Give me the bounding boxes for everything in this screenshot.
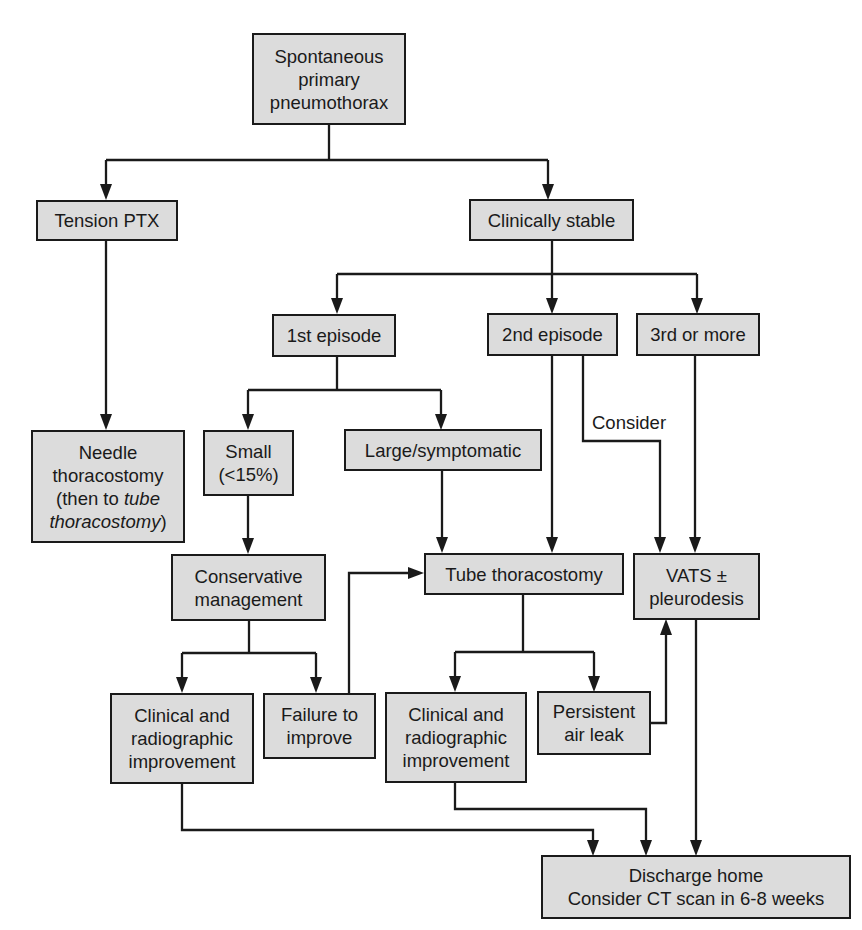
node-text: improvement xyxy=(403,749,510,772)
node-text: Persistent xyxy=(553,700,635,723)
node-text: Large/symptomatic xyxy=(365,439,521,462)
node-text-fragment: (then to xyxy=(56,488,124,509)
node-small: Small (<15%) xyxy=(203,430,294,496)
node-text: (<15%) xyxy=(218,463,278,486)
node-text: Consider CT scan in 6-8 weeks xyxy=(568,887,825,910)
node-text: improve xyxy=(287,726,353,749)
node-3rd-or-more: 3rd or more xyxy=(636,313,760,356)
node-text: thoracostomy xyxy=(52,464,163,487)
node-large-symptomatic: Large/symptomatic xyxy=(344,429,542,471)
node-text: Clinical and xyxy=(408,703,504,726)
edge-label-consider: Consider xyxy=(592,412,666,434)
node-1st-episode: 1st episode xyxy=(272,314,396,357)
node-tension-ptx: Tension PTX xyxy=(36,200,178,241)
node-text-fragment: ) xyxy=(160,511,166,532)
node-text: 3rd or more xyxy=(650,323,746,346)
node-text: VATS ± xyxy=(666,564,727,587)
node-persistent-air-leak: Persistent air leak xyxy=(537,691,651,755)
node-discharge-home: Discharge home Consider CT scan in 6-8 w… xyxy=(541,855,851,919)
node-text: radiographic xyxy=(405,726,507,749)
node-vats-pleurodesis: VATS ± pleurodesis xyxy=(633,553,760,620)
node-needle-thoracostomy: Needle thoracostomy (then to tube thorac… xyxy=(31,430,185,543)
node-clinical-improvement-right: Clinical and radiographic improvement xyxy=(385,692,527,783)
node-clinical-improvement-left: Clinical and radiographic improvement xyxy=(110,693,254,784)
node-text: (then to tube xyxy=(56,487,160,510)
node-text-italic: tube xyxy=(124,488,160,509)
node-text: Spontaneous xyxy=(274,45,383,68)
node-text: primary xyxy=(298,68,360,91)
node-text: Tension PTX xyxy=(55,209,160,232)
node-tube-thoracostomy: Tube thoracostomy xyxy=(424,553,624,595)
node-text: air leak xyxy=(564,723,624,746)
node-text: pneumothorax xyxy=(270,91,388,114)
node-spontaneous-primary-pneumothorax: Spontaneous primary pneumothorax xyxy=(252,33,406,125)
node-text: 2nd episode xyxy=(502,323,603,346)
node-text: Conservative xyxy=(195,565,303,588)
node-text: 1st episode xyxy=(287,324,382,347)
node-text: improvement xyxy=(129,750,236,773)
node-text: Clinically stable xyxy=(488,209,616,232)
node-text: thoracostomy) xyxy=(49,510,166,533)
node-text: Discharge home xyxy=(629,864,764,887)
node-text: Small xyxy=(225,440,271,463)
node-text: Clinical and xyxy=(134,704,230,727)
node-text: pleurodesis xyxy=(649,587,744,610)
node-text: Needle xyxy=(79,441,138,464)
node-text: Tube thoracostomy xyxy=(445,563,603,586)
node-text-italic: thoracostomy xyxy=(49,511,160,532)
node-conservative-management: Conservative management xyxy=(171,554,326,621)
node-2nd-episode: 2nd episode xyxy=(487,313,618,356)
node-clinically-stable: Clinically stable xyxy=(469,199,634,241)
node-text: management xyxy=(195,588,303,611)
pneumothorax-flowchart: Spontaneous primary pneumothorax Tension… xyxy=(0,0,862,930)
node-text: Failure to xyxy=(281,703,358,726)
node-failure-to-improve: Failure to improve xyxy=(263,693,376,759)
node-text: radiographic xyxy=(131,727,233,750)
